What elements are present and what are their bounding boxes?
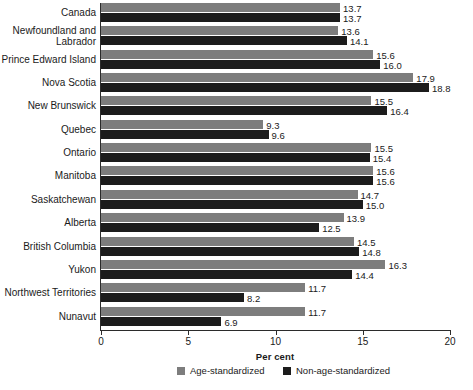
x-axis-tick xyxy=(276,331,277,335)
chart-row: New Brunswick15.516.4 xyxy=(0,96,473,115)
bar-non-age-standardized xyxy=(101,200,363,209)
x-axis-tick-label: 0 xyxy=(98,336,104,347)
bar-value-label: 13.7 xyxy=(343,14,362,23)
x-axis-tick xyxy=(188,331,189,335)
chart-row: Ontario15.515.4 xyxy=(0,143,473,162)
bar-chart: 05101520 Per cent Canada13.713.7Newfound… xyxy=(0,0,473,390)
bar-non-age-standardized xyxy=(101,270,352,279)
bar-age-standardized xyxy=(101,213,344,222)
chart-row: Manitoba15.615.6 xyxy=(0,166,473,185)
x-axis-tick-label: 15 xyxy=(357,336,368,347)
bar-age-standardized xyxy=(101,260,385,269)
bar-age-standardized xyxy=(101,237,354,246)
bar-non-age-standardized xyxy=(101,106,387,115)
chart-legend: Age-standardizedNon-age-standardized xyxy=(0,365,473,379)
bar-non-age-standardized xyxy=(101,36,347,45)
category-label: Alberta xyxy=(0,217,96,228)
category-label: Canada xyxy=(0,7,96,18)
bar-value-label: 18.8 xyxy=(432,84,451,93)
chart-row: Alberta13.912.5 xyxy=(0,213,473,232)
bar-age-standardized xyxy=(101,96,371,105)
category-label: Nova Scotia xyxy=(0,77,96,88)
category-label: Ontario xyxy=(0,147,96,158)
bar-value-label: 15.6 xyxy=(376,177,395,186)
bar-value-label: 11.7 xyxy=(308,308,326,317)
bar-value-label: 16.0 xyxy=(383,61,402,70)
category-label: Nunavut xyxy=(0,311,96,322)
legend-label: Non-age-standardized xyxy=(296,365,390,376)
bar-value-label: 13.7 xyxy=(343,4,362,13)
x-axis-tick-label: 10 xyxy=(270,336,281,347)
bar-age-standardized xyxy=(101,166,373,175)
chart-row: Northwest Territories11.78.2 xyxy=(0,283,473,302)
chart-row: British Columbia14.514.8 xyxy=(0,237,473,256)
category-label: Saskatchewan xyxy=(0,194,96,205)
bar-value-label: 16.4 xyxy=(390,107,409,116)
bar-non-age-standardized xyxy=(101,223,319,232)
bar-age-standardized xyxy=(101,307,305,316)
bar-age-standardized xyxy=(101,120,263,129)
bar-value-label: 15.0 xyxy=(366,201,385,210)
x-axis-tick xyxy=(450,331,451,335)
bar-non-age-standardized xyxy=(101,293,244,302)
chart-row: Saskatchewan14.715.0 xyxy=(0,190,473,209)
category-label: Northwest Territories xyxy=(0,287,96,298)
chart-row: Newfoundland and Labrador13.614.1 xyxy=(0,26,473,45)
chart-row: Yukon16.314.4 xyxy=(0,260,473,279)
bar-value-label: 13.6 xyxy=(341,27,360,36)
category-label: Prince Edward Island xyxy=(0,54,96,65)
category-label: Manitoba xyxy=(0,170,96,181)
x-axis-tick-label: 20 xyxy=(444,336,455,347)
bar-value-label: 15.5 xyxy=(374,144,393,153)
bar-value-label: 14.4 xyxy=(355,271,374,280)
bar-value-label: 13.9 xyxy=(347,214,366,223)
x-axis-title: Per cent xyxy=(256,351,294,362)
bar-value-label: 16.3 xyxy=(388,261,407,270)
bar-non-age-standardized xyxy=(101,176,373,185)
bar-value-label: 14.8 xyxy=(362,248,381,257)
category-label: Newfoundland and Labrador xyxy=(0,25,96,47)
bar-age-standardized xyxy=(101,26,338,35)
bar-non-age-standardized xyxy=(101,83,429,92)
x-axis-tick xyxy=(363,331,364,335)
bar-non-age-standardized xyxy=(101,130,269,139)
bar-value-label: 9.3 xyxy=(266,121,279,130)
bar-non-age-standardized xyxy=(101,13,340,22)
category-label: Quebec xyxy=(0,124,96,135)
bar-value-label: 12.5 xyxy=(322,224,341,233)
bar-value-label: 9.6 xyxy=(272,131,285,140)
bar-age-standardized xyxy=(101,190,358,199)
legend-label: Age-standardized xyxy=(190,365,264,376)
chart-row: Nova Scotia17.918.8 xyxy=(0,73,473,92)
bar-value-label: 14.7 xyxy=(361,191,380,200)
bar-age-standardized xyxy=(101,3,340,12)
bar-age-standardized xyxy=(101,143,371,152)
category-label: Yukon xyxy=(0,264,96,275)
bar-value-label: 15.6 xyxy=(376,51,395,60)
legend-swatch-icon xyxy=(177,367,185,375)
bar-value-label: 15.5 xyxy=(374,97,393,106)
bar-value-label: 6.9 xyxy=(224,318,237,327)
chart-row: Canada13.713.7 xyxy=(0,3,473,22)
bar-age-standardized xyxy=(101,50,373,59)
legend-swatch-icon xyxy=(283,367,291,375)
x-axis-tick-label: 5 xyxy=(185,336,191,347)
bar-age-standardized xyxy=(101,283,305,292)
bar-value-label: 15.4 xyxy=(373,154,392,163)
chart-row: Prince Edward Island15.616.0 xyxy=(0,50,473,69)
x-axis-tick xyxy=(101,331,102,335)
bar-value-label: 15.6 xyxy=(376,167,395,176)
legend-item: Non-age-standardized xyxy=(283,365,390,376)
legend-item: Age-standardized xyxy=(177,365,264,376)
bar-value-label: 14.1 xyxy=(350,37,369,46)
chart-row: Quebec9.39.6 xyxy=(0,120,473,139)
chart-row: Nunavut11.76.9 xyxy=(0,307,473,326)
bar-value-label: 17.9 xyxy=(416,74,435,83)
bar-value-label: 8.2 xyxy=(247,294,260,303)
category-label: New Brunswick xyxy=(0,100,96,111)
bar-non-age-standardized xyxy=(101,153,370,162)
category-label: British Columbia xyxy=(0,241,96,252)
bar-non-age-standardized xyxy=(101,317,221,326)
bar-value-label: 14.5 xyxy=(357,238,376,247)
bar-non-age-standardized xyxy=(101,60,380,69)
